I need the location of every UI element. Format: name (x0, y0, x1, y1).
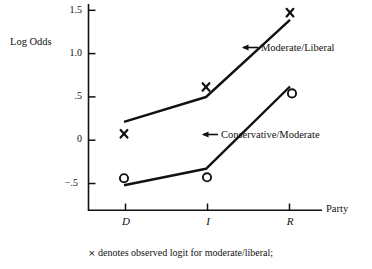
annotation-arrow-conservative-moderate (202, 131, 218, 137)
annotation-label-moderate-liberal: Moderate/Liberal (261, 42, 334, 53)
annotation-label-conservative-moderate: Conservative/Moderate (221, 129, 320, 140)
y-axis-title: Log Odds (10, 36, 52, 47)
marker-x-group (121, 9, 294, 138)
figure-caption: × denotes observed logit for moderate/li… (88, 247, 273, 258)
y-axis-ticks (89, 10, 96, 183)
y-tick-label-1-0: 1.0 (56, 47, 82, 58)
x-tick-label-r: R (280, 215, 300, 227)
y-tick-label-1-5: 1.5 (56, 4, 82, 15)
caption-text: denotes observed logit for moderate/libe… (98, 247, 273, 258)
y-tick-label-0: 0 (56, 133, 82, 144)
caption-x-marker-icon: × (88, 248, 96, 258)
x-tick-label-d: D (116, 215, 136, 227)
x-axis-ticks (126, 204, 290, 211)
y-tick-label-neg-0-5: −.5 (52, 177, 78, 188)
x-tick-label-i: I (198, 215, 218, 227)
annotation-arrow-moderate-liberal (242, 44, 258, 50)
y-tick-label-0-5: .5 (56, 90, 82, 101)
fitted-line-moderate-liberal (124, 20, 290, 122)
chart-figure: Log Odds 1.5 1.0 .5 0 −.5 D I R Party Mo… (0, 0, 372, 269)
x-axis-title: Party (326, 203, 348, 214)
